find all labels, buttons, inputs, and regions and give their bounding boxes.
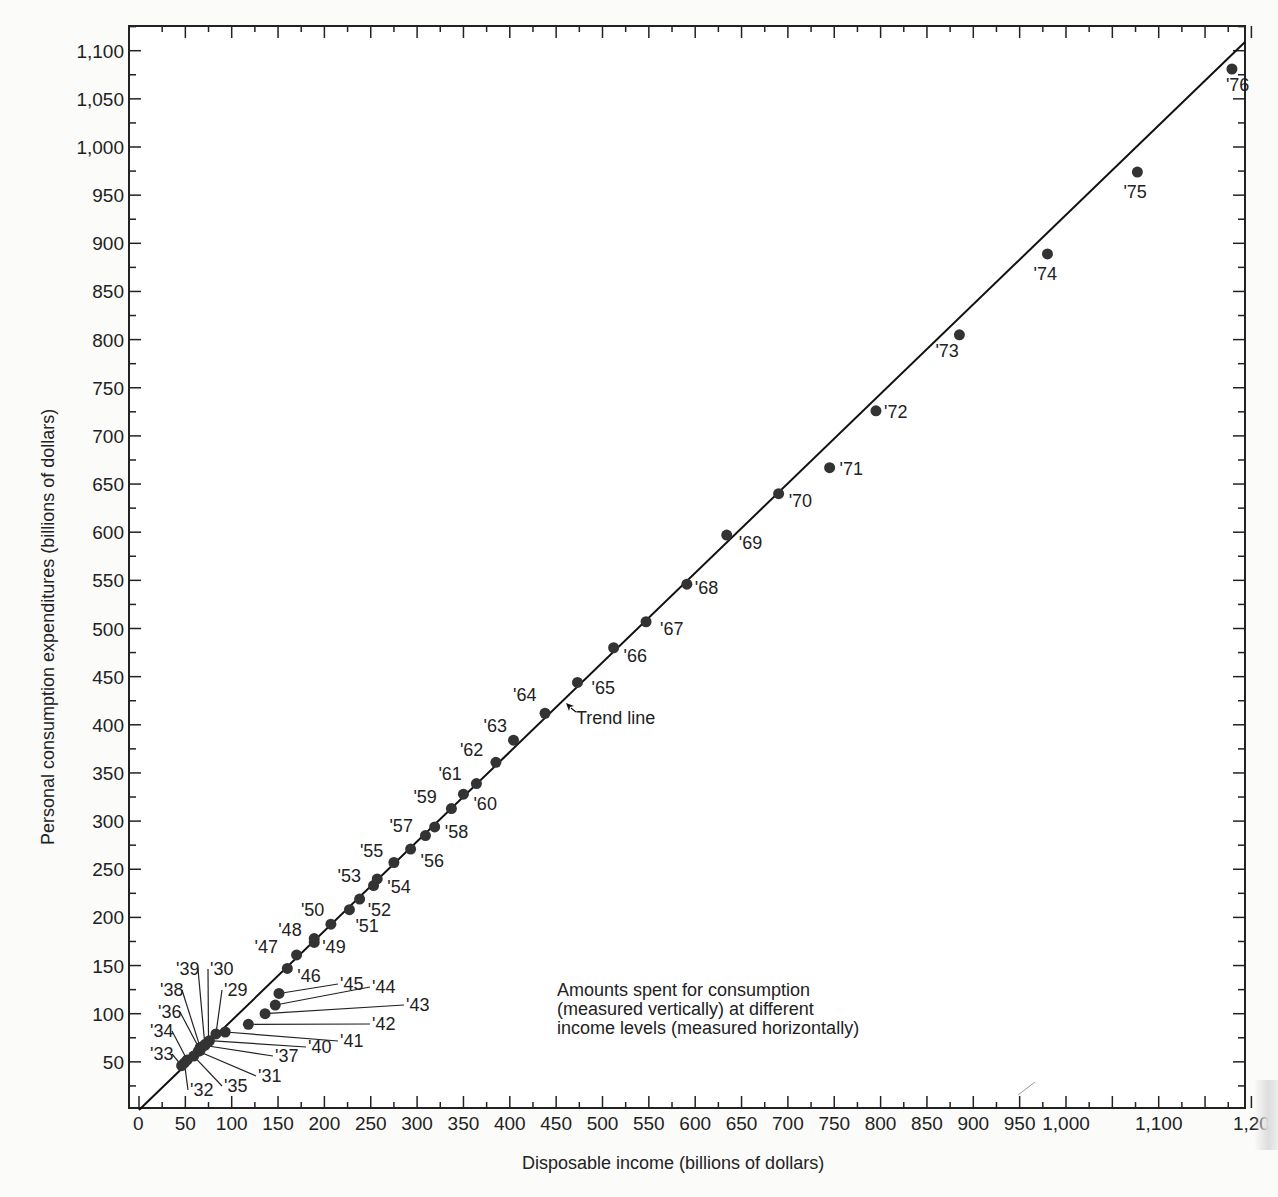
y-tick-label: 1,100 (76, 41, 124, 62)
point-label: '71 (840, 459, 863, 479)
point-label: '33 (150, 1044, 173, 1064)
data-point (1226, 63, 1237, 74)
point-label: '46 (297, 966, 320, 986)
x-tick-label: 900 (957, 1113, 989, 1134)
point-label: '38 (160, 980, 183, 1000)
data-point (273, 988, 284, 999)
data-point (540, 708, 551, 719)
point-label: '44 (372, 977, 395, 997)
x-tick-label: 600 (679, 1113, 711, 1134)
data-point (458, 789, 469, 800)
point-label: '60 (473, 794, 496, 814)
y-tick-label: 800 (92, 330, 124, 351)
point-label: '30 (210, 959, 233, 979)
x-tick-label: 300 (401, 1113, 433, 1134)
data-point (773, 488, 784, 499)
data-point (291, 949, 302, 960)
point-label: '34 (150, 1021, 173, 1041)
x-tick-label: 700 (772, 1113, 804, 1134)
y-tick-label: 50 (103, 1052, 124, 1073)
x-tick-label: 100 (216, 1113, 248, 1134)
data-point (420, 830, 431, 841)
chart-annotation: Amounts spent for consumption (measured … (557, 981, 859, 1038)
point-label: '73 (935, 341, 958, 361)
point-label: '61 (438, 764, 461, 784)
y-tick-label: 500 (92, 619, 124, 640)
data-point (388, 857, 399, 868)
y-tick-label: 150 (92, 956, 124, 977)
data-point (372, 873, 383, 884)
page-edge-shadow (1254, 1080, 1278, 1150)
x-tick-label: 800 (865, 1113, 897, 1134)
data-point (1042, 248, 1053, 259)
x-tick-label: 150 (262, 1113, 294, 1134)
point-label: '58 (445, 822, 468, 842)
annotation-line-3: income levels (measured horizontally) (557, 1019, 859, 1038)
data-point (270, 1000, 281, 1011)
point-label: '39 (176, 959, 199, 979)
point-label: '41 (340, 1031, 363, 1051)
x-tick-label: 50 (175, 1113, 196, 1134)
data-point (572, 677, 583, 688)
point-label: '62 (460, 740, 483, 760)
point-label: '49 (322, 937, 345, 957)
point-label: '45 (340, 974, 363, 994)
point-label: '29 (224, 980, 247, 1000)
point-label: '56 (421, 851, 444, 871)
data-point (282, 963, 293, 974)
y-tick-label: 900 (92, 233, 124, 254)
x-tick-label: 450 (540, 1113, 572, 1134)
point-label: '63 (484, 716, 507, 736)
x-tick-label: 250 (355, 1113, 387, 1134)
x-axis-title: Disposable income (billions of dollars) (522, 1153, 824, 1173)
point-label: '76 (1226, 75, 1249, 95)
y-tick-label: 300 (92, 811, 124, 832)
data-point (608, 642, 619, 653)
point-label: '52 (368, 900, 391, 920)
y-tick-label: 1,050 (76, 89, 124, 110)
x-tick-label: 750 (818, 1113, 850, 1134)
data-point (641, 616, 652, 627)
y-tick-label: 700 (92, 426, 124, 447)
x-tick-label: 200 (309, 1113, 341, 1134)
point-label: '37 (275, 1046, 298, 1066)
point-label: '43 (406, 995, 429, 1015)
x-tick-label: 850 (911, 1113, 943, 1134)
data-point (446, 803, 457, 814)
data-point (325, 919, 336, 930)
y-axis-title: Personal consumption expenditures (billi… (38, 409, 58, 845)
y-tick-label: 250 (92, 859, 124, 880)
data-point (204, 1035, 215, 1046)
y-tick-label: 200 (92, 907, 124, 928)
data-point (243, 1019, 254, 1030)
point-label: '40 (308, 1037, 331, 1057)
x-tick-label: 350 (448, 1113, 480, 1134)
data-point (508, 735, 519, 746)
data-point (220, 1026, 231, 1037)
point-label: '75 (1123, 182, 1146, 202)
point-label: '69 (739, 533, 762, 553)
point-label: '32 (190, 1080, 213, 1100)
point-label: '70 (789, 491, 812, 511)
point-label: '74 (1033, 264, 1056, 284)
data-point (954, 329, 965, 340)
y-tick-label: 400 (92, 715, 124, 736)
point-label: '35 (224, 1076, 247, 1096)
point-label: '72 (884, 402, 907, 422)
data-point (490, 757, 501, 768)
point-label: '31 (258, 1066, 281, 1086)
x-tick-label: 1,100 (1135, 1113, 1183, 1134)
point-label: '47 (255, 937, 278, 957)
y-tick-label: 1,000 (76, 137, 124, 158)
point-label: '42 (372, 1014, 395, 1034)
data-point (429, 821, 440, 832)
x-tick-label: 650 (726, 1113, 758, 1134)
y-tick-label: 450 (92, 667, 124, 688)
y-tick-label: 950 (92, 185, 124, 206)
point-label: '55 (360, 841, 383, 861)
data-point (260, 1008, 271, 1019)
point-label: '68 (695, 578, 718, 598)
plot-frame (129, 26, 1245, 1108)
x-tick-label: 400 (494, 1113, 526, 1134)
annotation-line-2: (measured vertically) at different (557, 1000, 859, 1019)
